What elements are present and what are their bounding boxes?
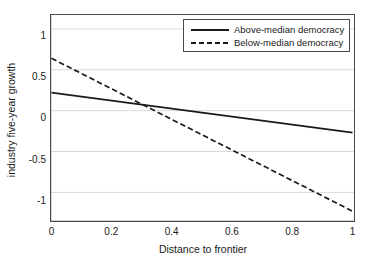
legend-item-label: Above-median democracy bbox=[234, 24, 344, 35]
gridlines bbox=[51, 29, 354, 192]
series-line-above-median-democracy bbox=[52, 93, 353, 133]
x-tick-label: 0.2 bbox=[91, 226, 131, 238]
y-tick-label: 0.5 bbox=[18, 72, 46, 82]
y-tick-label: -0.5 bbox=[18, 155, 46, 165]
y-tick-label: 1 bbox=[18, 31, 46, 41]
dashed-line-key bbox=[190, 38, 230, 48]
series-line-below-median-democracy bbox=[52, 58, 353, 211]
legend-item-label: Below-median democracy bbox=[234, 37, 343, 48]
x-tick-label: 0.6 bbox=[212, 226, 252, 238]
legend-item-below-median-democracy: Below-median democracy bbox=[184, 36, 349, 49]
y-tick-label: 0 bbox=[18, 113, 46, 123]
chart-legend: Above-median democracy Below-median demo… bbox=[183, 19, 350, 52]
x-tick-label: 0 bbox=[32, 226, 72, 238]
x-axis-title: Distance to frontier bbox=[50, 243, 356, 256]
x-tick-label: 0.4 bbox=[152, 226, 192, 238]
x-tick-label: 1 bbox=[333, 226, 371, 238]
chart-figure: industry five-year growth 1 0.5 0 -0.5 -… bbox=[0, 0, 371, 266]
legend-item-above-median-democracy: Above-median democracy bbox=[184, 23, 349, 36]
solid-line-key bbox=[190, 25, 230, 35]
x-axis-tick-labels: 0 0.2 0.4 0.6 0.8 1 bbox=[0, 226, 371, 240]
x-tick-label: 0.8 bbox=[272, 226, 312, 238]
y-tick-label: -1 bbox=[18, 196, 46, 206]
